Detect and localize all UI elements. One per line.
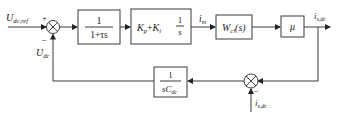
- sum-junction-1: [47, 21, 60, 34]
- capacitor-block: 1 sCdc: [154, 67, 187, 97]
- svg-text:1: 1: [178, 15, 183, 25]
- closed-loop-block: Wcl(s): [216, 15, 252, 39]
- sum2-minus-sign: –: [253, 86, 259, 95]
- svg-text:Wcl(s): Wcl(s): [222, 22, 246, 34]
- svg-text:s: s: [178, 27, 182, 37]
- pi-controller-block: Kp+Ki 1 s: [131, 9, 191, 44]
- block-diagram: Udc,ref + – 1 1+τs Kp+Ki 1 s im Wcl(s) μ: [0, 0, 339, 116]
- reference-label: Udc,ref: [6, 12, 29, 24]
- disturbance-current-label: is,dc: [255, 98, 267, 109]
- svg-text:1: 1: [97, 15, 102, 26]
- sum1-minus-sign: –: [41, 34, 47, 44]
- current-command-label: im: [199, 14, 207, 25]
- gain-mu-block: μ: [281, 16, 304, 37]
- svg-text:1: 1: [168, 70, 173, 80]
- svg-text:μ: μ: [289, 21, 295, 32]
- svg-text:Kp+Ki: Kp+Ki: [136, 22, 161, 34]
- sum1-plus-sign: +: [42, 13, 47, 23]
- svg-text:1+τs: 1+τs: [90, 30, 108, 40]
- feedback-voltage-label: Udc: [36, 47, 49, 59]
- output-current-label: is,dc: [314, 11, 326, 22]
- filter-block: 1 1+τs: [78, 10, 120, 44]
